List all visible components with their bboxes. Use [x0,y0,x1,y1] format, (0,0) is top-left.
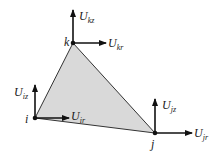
label-u-jz: Ujz [162,99,176,114]
label-u-ir: Uir [71,110,85,125]
label-u-jr: Ujr [194,127,208,142]
triangle-element [35,43,155,133]
triangle-element-diagram: k i j Ukz Ukr Uiz Uir Ujz Ujr [0,0,221,154]
node-label-j: j [151,138,154,150]
diagram-graphics [0,0,221,154]
label-u-kz: Ukz [79,10,94,25]
node-label-k: k [64,36,69,48]
node-label-i: i [25,113,28,125]
node-dot-k [71,41,76,46]
node-dot-i [33,116,38,121]
node-dot-j [153,131,158,136]
label-u-iz: Uiz [14,86,28,101]
label-u-kr: Ukr [108,37,123,52]
